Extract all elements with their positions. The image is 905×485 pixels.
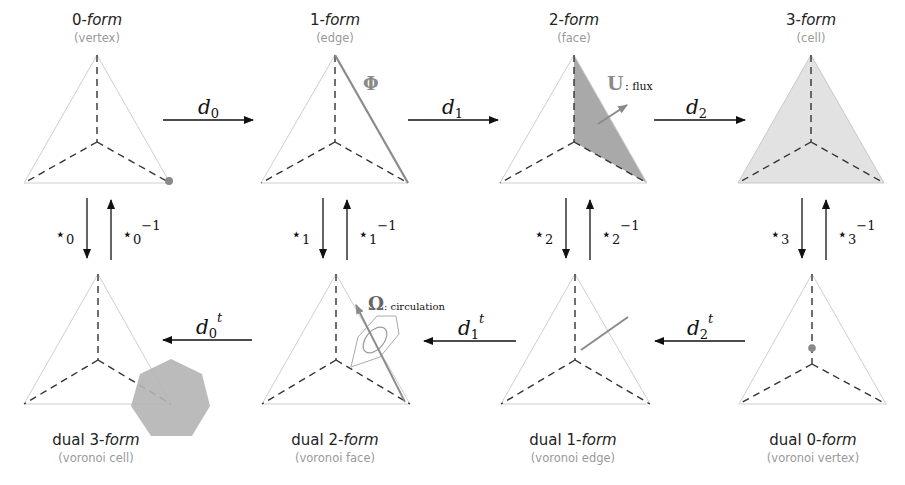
omega-arrow-icon <box>356 305 405 402</box>
tetra-dual-3-form: dual 3-form (voronoi cell) <box>24 274 210 465</box>
d1t-label: d1t <box>458 311 485 342</box>
subtitle-dual-3-form: (voronoi cell) <box>58 451 133 465</box>
svg-text:⋆3−1: ⋆3−1 <box>837 218 875 247</box>
voronoi-cell-heptagon <box>131 359 210 436</box>
d1t-arrow: d1t <box>424 311 516 342</box>
d2t-arrow: d2t <box>655 311 745 342</box>
title-dual-2-form: dual 2-form <box>291 431 378 449</box>
tetra-0-form: 0-form (vertex) <box>24 11 173 185</box>
title-2-form: 2-form <box>549 11 599 29</box>
hodge-star-2: ⋆2 ⋆2−1 <box>534 198 639 260</box>
title-dual-3-form: dual 3-form <box>52 431 139 449</box>
tetra-dual-1-form: dual 1-form (voronoi edge) <box>501 274 650 465</box>
hodge-star-3: ⋆3 ⋆3−1 <box>770 198 875 260</box>
d0t-label: d0t <box>196 310 223 341</box>
subtitle-0-form: (vertex) <box>74 31 120 45</box>
vertex-dot-icon <box>165 177 173 185</box>
svg-text:⋆2−1: ⋆2−1 <box>601 218 639 247</box>
phi-label: Φ <box>363 73 379 94</box>
d1-label: d1 <box>442 95 463 121</box>
voronoi-vertex-dot-icon <box>808 344 816 352</box>
subtitle-1-form: (edge) <box>316 31 354 45</box>
title-dual-0-form: dual 0-form <box>769 431 856 449</box>
title-dual-1-form: dual 1-form <box>529 431 616 449</box>
subtitle-dual-2-form: (voronoi face) <box>295 451 375 465</box>
title-3-form: 3-form <box>786 11 836 29</box>
tetra-dual-2-form: Ω : circulation dual 2-form (voronoi fac… <box>262 274 446 465</box>
subtitle-dual-0-form: (voronoi vertex) <box>767 451 859 465</box>
d0t-arrow: d0t <box>163 310 252 341</box>
u-label: U <box>607 72 624 94</box>
hodge-star-1: ⋆1 ⋆1−1 <box>291 198 396 260</box>
d0-label: d0 <box>198 95 219 121</box>
tetra-2-form: 2-form (face) U : flux <box>500 11 654 183</box>
d2t-label: d2t <box>687 311 714 342</box>
dec-diagram: 0-form (vertex) d0 1-form (edge) Φ d1 2-… <box>0 0 905 485</box>
tetra-3-form: 3-form (cell) <box>738 11 884 183</box>
svg-text:⋆2: ⋆2 <box>534 224 553 247</box>
d2-arrow: d2 <box>654 95 745 121</box>
circulation-label: : circulation <box>384 301 446 312</box>
svg-text:⋆1: ⋆1 <box>291 224 310 247</box>
tetra-1-form: 1-form (edge) Φ <box>261 11 408 183</box>
subtitle-dual-1-form: (voronoi edge) <box>531 451 615 465</box>
svg-text:⋆0−1: ⋆0−1 <box>122 218 160 247</box>
d2-label: d2 <box>686 95 707 121</box>
svg-text:⋆0: ⋆0 <box>55 224 74 247</box>
title-1-form: 1-form <box>310 11 360 29</box>
subtitle-2-form: (face) <box>557 31 590 45</box>
flux-label: : flux <box>625 80 654 93</box>
title-0-form: 0-form <box>72 11 122 29</box>
hodge-star-0: ⋆0 ⋆0−1 <box>55 198 160 260</box>
voronoi-edge-line <box>581 317 628 350</box>
circulation-loop-icon <box>358 323 391 358</box>
subtitle-3-form: (cell) <box>797 31 826 45</box>
omega-label: Ω <box>368 293 384 314</box>
svg-text:⋆3: ⋆3 <box>770 224 789 247</box>
tetra-dual-0-form: dual 0-form (voronoi vertex) <box>739 274 886 465</box>
svg-text:⋆1−1: ⋆1−1 <box>358 218 396 247</box>
d0-arrow: d0 <box>163 95 253 121</box>
d1-arrow: d1 <box>408 95 498 121</box>
